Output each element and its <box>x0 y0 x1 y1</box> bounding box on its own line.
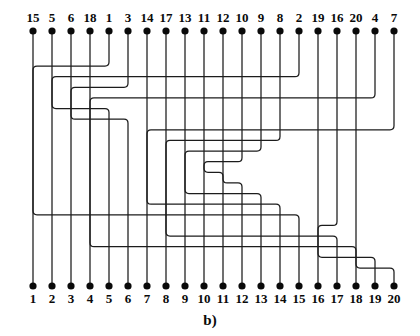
bottom-terminal-dot[interactable] <box>200 282 207 289</box>
figure-caption: b) <box>203 312 216 329</box>
top-terminal-dot[interactable] <box>200 27 207 34</box>
top-terminal-dot[interactable] <box>105 27 112 34</box>
wire-path <box>204 31 223 286</box>
top-terminal-dot[interactable] <box>295 27 302 34</box>
top-terminal-dot[interactable] <box>143 27 150 34</box>
top-terminal-label: 4 <box>372 10 379 25</box>
top-terminal-label: 5 <box>49 10 56 25</box>
bottom-terminal-dot[interactable] <box>295 282 302 289</box>
bottom-terminal-dot[interactable] <box>352 282 359 289</box>
top-terminal-label: 8 <box>277 10 284 25</box>
top-terminal-label: 16 <box>331 10 345 25</box>
top-terminal-label: 2 <box>296 10 303 25</box>
top-terminal-label: 20 <box>350 10 363 25</box>
bottom-terminal-dot[interactable] <box>390 282 397 289</box>
bottom-terminal-dot[interactable] <box>333 282 340 289</box>
bottom-terminal-dot[interactable] <box>143 282 150 289</box>
wire-path <box>318 31 375 286</box>
bottom-terminal-dot[interactable] <box>67 282 74 289</box>
top-terminal-label: 19 <box>312 10 326 25</box>
wire-path <box>90 31 375 286</box>
top-terminal-dot[interactable] <box>352 27 359 34</box>
bottom-terminal-label: 6 <box>125 291 132 306</box>
top-terminal-dot[interactable] <box>238 27 245 34</box>
wire-path <box>147 31 394 286</box>
top-terminal-dot[interactable] <box>67 27 74 34</box>
wire-path <box>52 31 109 286</box>
bottom-terminal-label: 20 <box>388 291 401 306</box>
bottom-terminal-dot[interactable] <box>162 282 169 289</box>
top-terminal-label: 14 <box>141 10 155 25</box>
top-terminal-label: 12 <box>217 10 230 25</box>
bottom-terminal-dot[interactable] <box>181 282 188 289</box>
bottom-terminal-label: 1 <box>30 291 37 306</box>
bottom-terminal-dot[interactable] <box>105 282 112 289</box>
bottom-terminal-dot[interactable] <box>314 282 321 289</box>
bottom-terminal-label: 4 <box>87 291 94 306</box>
bottom-terminal-dot[interactable] <box>124 282 131 289</box>
bottom-terminal-label: 7 <box>144 291 151 306</box>
bottom-terminal-dot[interactable] <box>371 282 378 289</box>
top-terminal-dot[interactable] <box>86 27 93 34</box>
top-terminal-label: 15 <box>27 10 41 25</box>
top-terminal-dot[interactable] <box>257 27 264 34</box>
top-terminal-dot[interactable] <box>162 27 169 34</box>
top-terminal-label: 17 <box>160 10 174 25</box>
bottom-terminal-dot[interactable] <box>238 282 245 289</box>
bottom-terminal-label: 16 <box>312 291 326 306</box>
top-terminal-dot[interactable] <box>124 27 131 34</box>
bottom-terminal-label: 10 <box>198 291 211 306</box>
bottom-terminal-label: 12 <box>236 291 249 306</box>
top-terminal-dot[interactable] <box>181 27 188 34</box>
bottom-terminal-label: 5 <box>106 291 113 306</box>
top-terminal-label: 10 <box>236 10 249 25</box>
bottom-terminal-dot[interactable] <box>48 282 55 289</box>
top-terminal-label: 1 <box>106 10 113 25</box>
wiring-diagram-canvas: 1556181314171311121098219162047 12345678… <box>0 0 420 336</box>
bottom-terminal-label: 13 <box>255 291 269 306</box>
top-terminal-dot[interactable] <box>333 27 340 34</box>
top-terminal-label: 3 <box>125 10 132 25</box>
bottom-terminal-label: 2 <box>49 291 56 306</box>
bottom-terminal-dot[interactable] <box>29 282 36 289</box>
bottom-terminal-label: 14 <box>274 291 288 306</box>
wire-paths-group <box>33 31 394 286</box>
wire-path <box>52 31 299 286</box>
top-terminal-label: 13 <box>179 10 193 25</box>
bottom-terminal-label: 3 <box>68 291 75 306</box>
bottom-terminal-label: 8 <box>163 291 170 306</box>
top-terminal-dot[interactable] <box>29 27 36 34</box>
bottom-terminal-dot[interactable] <box>257 282 264 289</box>
bottom-terminal-label: 11 <box>217 291 229 306</box>
wire-path <box>147 31 280 286</box>
top-terminal-label: 18 <box>84 10 98 25</box>
top-terminal-dot[interactable] <box>371 27 378 34</box>
top-terminal-label: 7 <box>391 10 398 25</box>
wire-path <box>223 31 242 286</box>
top-terminal-dot[interactable] <box>276 27 283 34</box>
top-terminal-dot[interactable] <box>314 27 321 34</box>
bottom-terminal-dot[interactable] <box>219 282 226 289</box>
top-terminal-label: 6 <box>68 10 75 25</box>
wire-path <box>166 31 337 286</box>
wire-path <box>71 31 128 286</box>
top-terminal-dot[interactable] <box>48 27 55 34</box>
bottom-terminal-dot[interactable] <box>86 282 93 289</box>
bottom-terminal-label: 9 <box>182 291 189 306</box>
top-terminal-label: 11 <box>198 10 210 25</box>
top-terminal-label: 9 <box>258 10 265 25</box>
bottom-terminal-labels-group: 1234567891011121314151617181920 <box>30 291 401 306</box>
bottom-terminal-label: 19 <box>369 291 383 306</box>
terminal-dots-group <box>29 27 397 289</box>
bottom-terminal-label: 15 <box>293 291 307 306</box>
top-terminal-labels-group: 1556181314171311121098219162047 <box>27 10 398 25</box>
bottom-terminal-label: 17 <box>331 291 345 306</box>
wire-path <box>318 31 337 286</box>
top-terminal-dot[interactable] <box>390 27 397 34</box>
top-terminal-dot[interactable] <box>219 27 226 34</box>
bottom-terminal-label: 18 <box>350 291 364 306</box>
permutation-wiring-figure: 1556181314171311121098219162047 12345678… <box>0 0 420 336</box>
bottom-terminal-dot[interactable] <box>276 282 283 289</box>
wire-path <box>71 31 128 286</box>
